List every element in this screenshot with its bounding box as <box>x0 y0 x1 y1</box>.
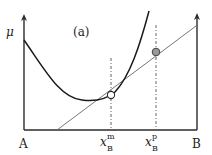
label-xBm-base: x <box>100 135 107 149</box>
panel-label: (a) <box>73 25 90 39</box>
y-axis-label: μ <box>6 25 14 39</box>
tangent-line <box>57 26 196 130</box>
label-xBm-sub: B <box>107 144 113 153</box>
endpoint-label-a: A <box>18 137 28 151</box>
open-circle-marker <box>107 91 114 98</box>
label-xBp-base: x <box>145 135 152 149</box>
chemical-potential-diagram: μ (a) A B x m B x p B <box>0 0 212 155</box>
label-xBp: x p B <box>145 132 158 153</box>
filled-circle-marker <box>152 48 160 56</box>
label-xBm-sup: m <box>107 132 115 141</box>
label-xBp-sup: p <box>152 132 157 141</box>
endpoint-label-b: B <box>192 137 201 151</box>
label-xBp-sub: B <box>152 144 158 153</box>
label-xBm: x m B <box>100 132 115 153</box>
